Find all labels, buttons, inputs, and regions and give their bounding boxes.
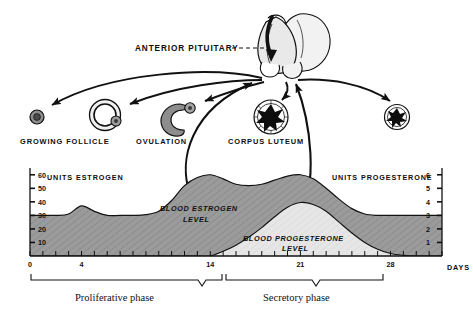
left-tick-label-10: 10 — [38, 238, 46, 247]
right-axis-label: UNITS PROGESTERONE — [332, 173, 432, 182]
x-tick-label-28: 28 — [387, 260, 395, 269]
left-tick-label-20: 20 — [38, 225, 46, 234]
label-ovulation: OVULATION — [136, 137, 187, 146]
arrow-to-regressing-corpus-luteum — [298, 80, 390, 101]
pituitary-gland-group — [258, 14, 330, 79]
secretory-phase-label: Secretory phase — [263, 292, 330, 303]
proliferative-phase-bracket — [31, 274, 222, 286]
label-growing-follicle: GROWING FOLLICLE — [20, 137, 110, 146]
label-corpus-luteum: CORPUS LUTEUM — [228, 137, 304, 146]
estrogen-curve-label-line2: LEVEL — [183, 215, 210, 224]
estrogen-curve-label-line1: BLOOD ESTROGEN — [160, 204, 238, 213]
proliferative-phase-label: Proliferative phase — [75, 292, 154, 303]
secretory-phase-bracket — [226, 274, 383, 286]
left-tick-label-50: 50 — [38, 184, 46, 193]
right-tick-label-3: 3 — [426, 211, 430, 220]
right-tick-label-1: 1 — [426, 238, 430, 247]
x-axis-label: DAYS — [447, 263, 470, 272]
left-tick-label-40: 40 — [38, 198, 46, 207]
menstrual-cycle-figure: ANTERIOR PITUITARY — [0, 0, 473, 311]
ovary-icon-regressing-corpus-luteum — [385, 105, 410, 130]
ruptured-follicle-wall — [161, 104, 186, 136]
ovary-icon-ovulation — [161, 103, 195, 136]
left-tick-label-60: 60 — [38, 171, 46, 180]
anterior-pituitary-leader: ANTERIOR PITUITARY — [135, 44, 266, 53]
x-tick-label-21: 21 — [296, 260, 304, 269]
x-tick-label-14: 14 — [206, 260, 214, 269]
right-tick-label-5: 5 — [426, 184, 430, 193]
ovary-icon-corpus-luteum — [254, 100, 288, 134]
progesterone-curve-label-line1: BLOOD PROGESTERONE — [243, 234, 344, 243]
arrow-to-growing-follicle — [130, 80, 262, 104]
ovary-icon-growing-follicle — [90, 100, 122, 131]
ovary-icon-growing-follicle-early — [30, 110, 44, 124]
figure-root: ANTERIOR PITUITARY — [0, 0, 473, 311]
chart-areas — [30, 175, 442, 257]
anterior-pituitary-label: ANTERIOR PITUITARY — [135, 44, 239, 53]
right-tick-label-4: 4 — [426, 198, 430, 207]
left-axis-label: UNITS ESTROGEN — [47, 173, 124, 182]
x-axis-tick-labels: 04142128 — [28, 260, 395, 269]
arrow-to-corpus-luteum — [282, 82, 288, 100]
x-tick-label-0: 0 — [28, 260, 32, 269]
x-tick-label-4: 4 — [80, 260, 84, 269]
right-tick-label-2: 2 — [426, 225, 430, 234]
left-tick-label-30: 30 — [38, 211, 46, 220]
arrow-to-growing-follicle-early — [52, 72, 262, 105]
hormone-chart: 102030405060 123456 04142128 UNITS ESTRO… — [28, 168, 470, 303]
phase-brackets: Proliferative phase Secretory phase — [31, 274, 383, 303]
progesterone-curve-label-line2: LEVEL — [282, 244, 309, 253]
